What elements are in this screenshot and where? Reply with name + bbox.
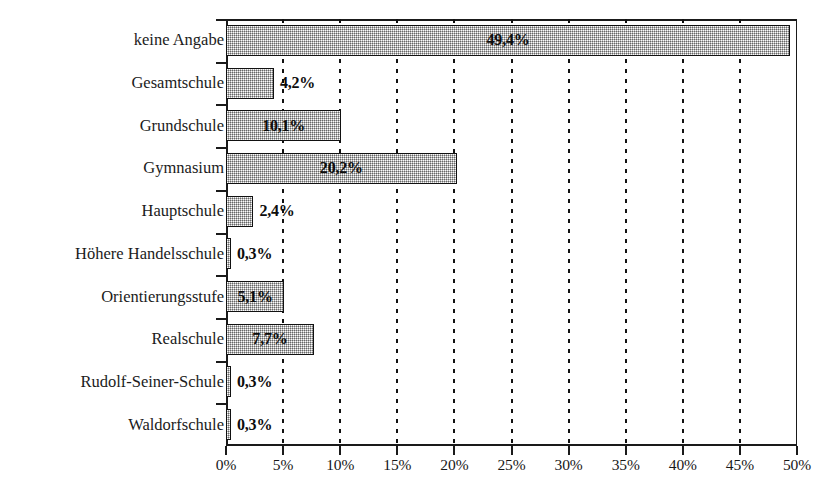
value-label-keine-angabe: 49,4% <box>226 32 790 48</box>
x-tick-15 <box>396 446 398 455</box>
bar-h-here-handelsschule <box>226 238 231 269</box>
x-tick-label: 0% <box>194 456 258 474</box>
category-label-gymnasium: Gymnasium <box>143 160 224 177</box>
gridline-35 <box>625 19 627 446</box>
x-tick-label: 45% <box>708 456 772 474</box>
bar-waldorfschule <box>226 409 231 440</box>
bar-gesamtschule <box>226 68 274 99</box>
y-tick <box>216 275 227 277</box>
gridline-15 <box>396 19 398 446</box>
value-label-hauptschule: 2,4% <box>259 203 294 219</box>
x-tick-40 <box>682 446 684 455</box>
y-tick <box>216 403 227 405</box>
category-label-keine-angabe: keine Angabe <box>134 32 224 49</box>
y-tick <box>216 147 227 149</box>
bar-rudolf-seiner-schule <box>226 366 231 397</box>
category-label-h-here-handelsschule: Höhere Handelsschule <box>75 246 224 263</box>
category-label-hauptschule: Hauptschule <box>142 203 224 220</box>
y-tick <box>216 190 227 192</box>
x-tick-10 <box>339 446 341 455</box>
gridline-45 <box>739 19 741 446</box>
x-tick-label: 30% <box>537 456 601 474</box>
x-tick-5 <box>282 446 284 455</box>
x-tick-label: 50% <box>765 456 824 474</box>
x-tick-label: 25% <box>480 456 544 474</box>
gridline-30 <box>568 19 570 446</box>
x-tick-label: 35% <box>594 456 658 474</box>
value-label-grundschule: 10,1% <box>226 118 341 134</box>
x-tick-label: 20% <box>422 456 486 474</box>
category-label-rudolf-seiner-schule: Rudolf-Seiner-Schule <box>80 374 224 391</box>
x-tick-35 <box>625 446 627 455</box>
value-label-waldorfschule: 0,3% <box>237 417 272 433</box>
y-tick <box>216 233 227 235</box>
value-label-realschule: 7,7% <box>226 331 314 347</box>
y-tick <box>216 62 227 64</box>
value-label-gymnasium: 20,2% <box>226 160 457 176</box>
x-tick-label: 5% <box>251 456 315 474</box>
value-label-h-here-handelsschule: 0,3% <box>237 246 272 262</box>
y-tick <box>216 318 227 320</box>
category-label-gesamtschule: Gesamtschule <box>131 75 224 92</box>
y-tick <box>216 104 227 106</box>
x-tick-label: 15% <box>365 456 429 474</box>
category-label-waldorfschule: Waldorfschule <box>128 417 224 434</box>
category-label-realschule: Realschule <box>152 331 224 348</box>
bar-chart-figure: 0%5%10%15%20%25%30%35%40%45%50% keine An… <box>0 0 824 502</box>
x-tick-30 <box>568 446 570 455</box>
value-label-gesamtschule: 4,2% <box>280 75 315 91</box>
x-tick-50 <box>796 446 798 455</box>
x-tick-0 <box>225 446 227 455</box>
category-label-orientierungsstufe: Orientierungsstufe <box>101 289 224 306</box>
gridline-10 <box>339 19 341 446</box>
value-label-orientierungsstufe: 5,1% <box>226 289 284 305</box>
gridline-20 <box>453 19 455 446</box>
x-tick-label: 40% <box>651 456 715 474</box>
x-tick-45 <box>739 446 741 455</box>
bar-hauptschule <box>226 196 253 227</box>
category-label-grundschule: Grundschule <box>140 118 224 135</box>
gridline-25 <box>511 19 513 446</box>
y-tick <box>216 361 227 363</box>
x-tick-label: 10% <box>308 456 372 474</box>
gridline-40 <box>682 19 684 446</box>
value-label-rudolf-seiner-schule: 0,3% <box>237 374 272 390</box>
x-tick-25 <box>511 446 513 455</box>
y-tick <box>216 19 227 21</box>
x-tick-20 <box>453 446 455 455</box>
